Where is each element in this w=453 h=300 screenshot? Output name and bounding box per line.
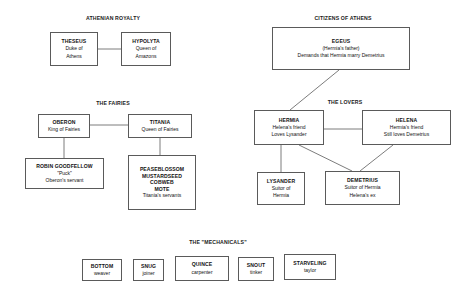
node-lysander-line1: Suitor of xyxy=(272,185,291,192)
node-snug-line1: joiner xyxy=(142,270,154,277)
node-servants-line1: Titania's servants xyxy=(143,192,182,199)
node-lysander-name: LYSANDER xyxy=(267,178,295,185)
node-titania-line1: Queen of Fairies xyxy=(142,126,179,133)
node-titania-servants[interactable]: PEASEBLOSSOM MUSTARDSEED COBWEB MOTE Tit… xyxy=(128,155,196,210)
node-demetrius[interactable]: DEMETRIUS Suitor of Hermia Helena's ex xyxy=(325,171,400,205)
node-titania[interactable]: TITANIA Queen of Fairies xyxy=(128,114,192,138)
node-robin-line2: Oberon's servant xyxy=(46,177,84,184)
node-hypolyta-line2: Amazons xyxy=(136,53,157,60)
node-robin-line1: "Puck" xyxy=(57,170,72,177)
node-hypolyta-name: HYPOLYTA xyxy=(132,38,160,45)
node-mote-name: MOTE xyxy=(154,186,169,193)
node-demetrius-line2: Helena's ex xyxy=(350,192,376,199)
node-theseus-name: THESEUS xyxy=(62,38,87,45)
node-hermia-name: HERMIA xyxy=(279,117,300,124)
section-title-the-mechanicals: THE "MECHANICALS" xyxy=(189,239,247,245)
node-theseus-line1: Duke of xyxy=(65,45,82,52)
node-egeus[interactable]: EGEUS (Hermia's father) Demands that Her… xyxy=(272,27,410,70)
node-robin-name: ROBIN GOODFELLOW xyxy=(36,163,93,170)
node-egeus-line2: Demands that Hermia marry Demetrius xyxy=(298,52,385,59)
node-robin-goodfellow[interactable]: ROBIN GOODFELLOW "Puck" Oberon's servant xyxy=(25,158,104,189)
node-lysander-line2: Hermia xyxy=(273,192,289,199)
character-map-diagram: ATHENIAN ROYALTY THESEUS Duke of Athens … xyxy=(0,0,453,300)
node-snout-line1: tinker xyxy=(250,269,262,276)
node-starveling-name: STARVELING xyxy=(293,260,326,267)
node-egeus-line1: (Hermia's father) xyxy=(322,45,359,52)
node-cobweb-name: COBWEB xyxy=(150,179,174,186)
section-title-citizens-of-athens: CITIZENS OF ATHENS xyxy=(314,15,371,21)
node-bottom-line1: weaver xyxy=(94,270,110,277)
node-snug-name: SNUG xyxy=(141,263,156,270)
node-demetrius-line1: Suitor of Hermia xyxy=(344,184,380,191)
node-helena[interactable]: HELENA Hermia's friend Still loves Demet… xyxy=(362,110,451,145)
node-theseus-line2: Athens xyxy=(66,53,82,60)
node-quince-line1: carpenter xyxy=(191,269,212,276)
edge-hermia-demetrius xyxy=(299,145,352,171)
node-helena-name: HELENA xyxy=(396,117,418,124)
node-lysander[interactable]: LYSANDER Suitor of Hermia xyxy=(257,172,305,205)
node-snout-name: SNOUT xyxy=(247,262,265,269)
node-starveling[interactable]: STARVELING taylor xyxy=(284,254,336,280)
node-theseus[interactable]: THESEUS Duke of Athens xyxy=(50,32,98,66)
node-peaseblossom-name: PEASEBLOSSOM xyxy=(140,166,184,173)
node-hermia[interactable]: HERMIA Helena's friend Loves Lysander xyxy=(254,110,324,145)
node-quince-name: QUINCE xyxy=(192,261,212,268)
node-starveling-line1: taylor xyxy=(304,267,316,274)
node-oberon-name: OBERON xyxy=(53,119,76,126)
node-hermia-line2: Loves Lysander xyxy=(271,131,306,138)
node-snout[interactable]: SNOUT tinker xyxy=(238,257,274,281)
node-titania-name: TITANIA xyxy=(150,119,170,126)
node-hypolyta[interactable]: HYPOLYTA Queen of Amazons xyxy=(121,32,171,66)
node-helena-line1: Hermia's friend xyxy=(390,124,423,131)
node-demetrius-name: DEMETRIUS xyxy=(347,177,378,184)
node-bottom[interactable]: BOTTOM weaver xyxy=(82,259,122,281)
section-title-athenian-royalty: ATHENIAN ROYALTY xyxy=(86,15,140,21)
node-helena-line2: Still loves Demetrius xyxy=(384,131,429,138)
node-hermia-line1: Helena's friend xyxy=(272,124,305,131)
node-egeus-name: EGEUS xyxy=(332,38,350,45)
edge-helena-demetrius xyxy=(360,145,393,171)
node-mustardseed-name: MUSTARDSEED xyxy=(142,173,182,180)
section-title-the-fairies: THE FAIRIES xyxy=(96,100,130,106)
node-oberon-line1: King of Fairies xyxy=(48,126,80,133)
section-title-the-lovers: THE LOVERS xyxy=(328,99,363,105)
node-bottom-name: BOTTOM xyxy=(91,263,114,270)
node-oberon[interactable]: OBERON King of Fairies xyxy=(38,114,90,138)
node-snug[interactable]: SNUG joiner xyxy=(133,259,164,281)
node-quince[interactable]: QUINCE carpenter xyxy=(175,256,229,281)
node-hypolyta-line1: Queen of xyxy=(136,45,157,52)
